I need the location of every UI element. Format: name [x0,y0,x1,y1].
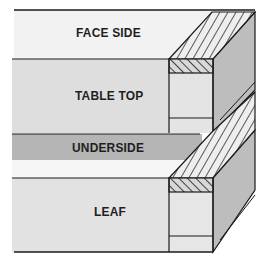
label-table-top: TABLE TOP [75,88,143,103]
label-leaf: LEAF [94,204,126,219]
leaf-rule-band [169,178,213,192]
table-top-rule-band [169,59,213,73]
white-strip [12,160,182,178]
label-underside: UNDERSIDE [72,140,144,155]
label-face-side: FACE SIDE [76,25,141,40]
leaf-front [12,178,170,252]
